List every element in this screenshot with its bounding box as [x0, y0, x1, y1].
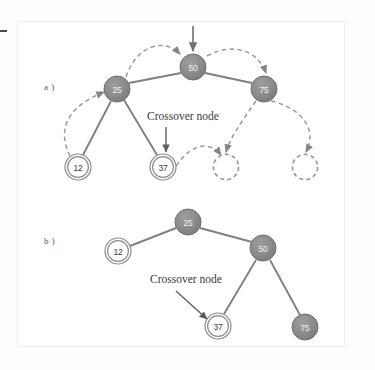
figure-root: 50 25 75 12 37 25: [0, 0, 375, 370]
nodes-layer: 50 25 75 12 37 25: [0, 0, 375, 370]
node-a-25-label: 25: [112, 85, 122, 95]
node-a-12-label: 12: [73, 163, 83, 173]
node-a-12[interactable]: 12: [65, 154, 91, 180]
node-a-empty-1[interactable]: [213, 154, 238, 179]
node-a-75[interactable]: 75: [251, 76, 277, 102]
node-b-12[interactable]: 12: [105, 238, 131, 264]
node-b-75[interactable]: 75: [292, 314, 318, 340]
node-b-25-label: 25: [183, 218, 193, 228]
panel-label-a: a ): [44, 82, 55, 92]
crossover-annotation-b: Crossover node: [150, 273, 222, 285]
node-a-75-label: 75: [259, 85, 269, 95]
node-b-37-label: 37: [213, 322, 223, 332]
crossover-annotation-a: Crossover node: [147, 110, 219, 122]
node-a-empty-2[interactable]: [292, 154, 317, 179]
node-b-12-label: 12: [113, 247, 123, 257]
node-a-37[interactable]: 37: [150, 154, 176, 180]
node-b-50-label: 50: [258, 244, 268, 254]
node-b-50[interactable]: 50: [250, 235, 276, 261]
node-b-75-label: 75: [300, 323, 310, 333]
node-b-37[interactable]: 37: [205, 313, 231, 339]
node-b-25[interactable]: 25: [175, 209, 201, 235]
node-a-37-label: 37: [158, 163, 168, 173]
node-a-50[interactable]: 50: [180, 54, 206, 80]
node-a-25[interactable]: 25: [104, 76, 130, 102]
node-a-50-label: 50: [188, 63, 198, 73]
panel-label-b: b ): [44, 236, 55, 246]
